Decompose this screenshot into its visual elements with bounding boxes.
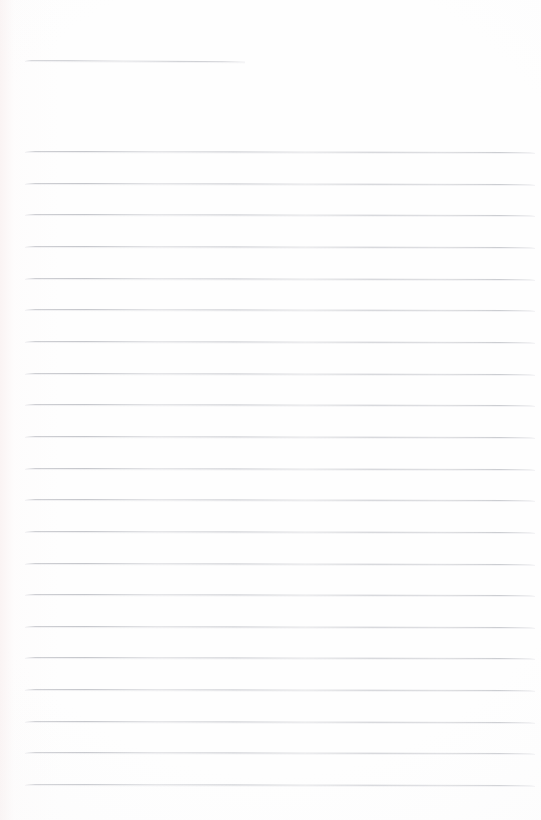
- body-rule-line-16: [25, 626, 535, 628]
- body-rule-line-1: [25, 151, 535, 153]
- body-rule-line-19: [25, 721, 535, 723]
- body-rule-line-8: [25, 373, 535, 375]
- body-rule-line-6: [25, 309, 535, 311]
- body-rule-line-11: [25, 468, 535, 470]
- ruled-lines-layer: [0, 0, 541, 820]
- body-rule-line-10: [25, 436, 535, 438]
- body-rule-line-14: [25, 563, 535, 565]
- body-rule-line-7: [25, 341, 535, 343]
- body-rule-line-4: [25, 246, 535, 248]
- body-rule-line-12: [25, 499, 535, 501]
- body-rule-line-15: [25, 594, 535, 596]
- body-rule-line-5: [25, 278, 535, 280]
- body-rule-line-2: [25, 183, 535, 185]
- body-rule-line-20: [25, 752, 535, 754]
- body-rule-line-9: [25, 404, 535, 406]
- header-rule-line: [25, 60, 245, 62]
- body-rule-line-18: [25, 689, 535, 691]
- body-rule-line-21: [25, 784, 535, 786]
- body-rule-line-17: [25, 657, 535, 659]
- notepaper-page: [0, 0, 541, 820]
- body-rule-line-3: [25, 214, 535, 216]
- body-rule-line-13: [25, 531, 535, 533]
